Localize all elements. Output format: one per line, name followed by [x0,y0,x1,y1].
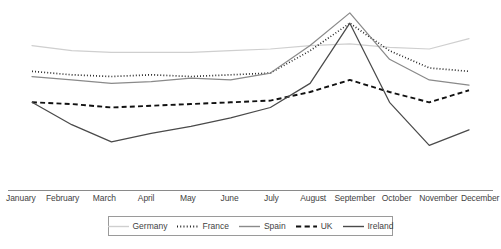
x-tick-label-january: January [0,192,42,205]
chart-legend: GermanyFranceSpainUKIreland [108,216,393,236]
legend-label: Ireland [368,221,394,231]
x-tick-label-april: April [125,192,167,205]
x-tick-label-may: May [167,192,209,205]
line-swatch-solid-gray-icon [239,222,260,231]
line-swatch-solid-light-icon [108,222,129,231]
x-tick-label-august: August [292,192,334,205]
line-swatch-dashed-icon [296,222,317,231]
x-tick-label-july: July [251,192,293,205]
x-axis-labels: JanuaryFebruaryMarchAprilMayJuneJulyAugu… [0,192,501,212]
legend-label: Spain [264,221,286,231]
legend-item-spain[interactable]: Spain [239,221,286,231]
x-tick-label-february: February [42,192,84,205]
legend-label: Germany [133,221,168,231]
legend-item-germany[interactable]: Germany [108,221,168,231]
legend-item-uk[interactable]: UK [296,221,333,231]
x-tick-label-june: June [209,192,251,205]
line-chart: JanuaryFebruaryMarchAprilMayJuneJulyAugu… [0,0,501,249]
x-tick-label-december: December [459,192,501,205]
series-line-germany [32,39,469,53]
series-group [32,13,469,145]
legend-item-france[interactable]: France [177,221,228,231]
x-tick-label-october: October [376,192,418,205]
series-line-spain [32,13,469,85]
legend-label: France [202,221,228,231]
legend-label: UK [321,221,333,231]
line-swatch-solid-dark-icon [343,222,364,231]
legend-item-ireland[interactable]: Ireland [343,221,394,231]
x-tick-label-march: March [84,192,126,205]
plot-svg [0,0,501,192]
plot-area [0,0,501,192]
series-line-uk [32,80,469,108]
x-tick-label-september: September [334,192,376,205]
line-swatch-dotted-icon [177,222,198,231]
series-line-ireland [32,23,469,145]
x-tick-label-november: November [418,192,460,205]
